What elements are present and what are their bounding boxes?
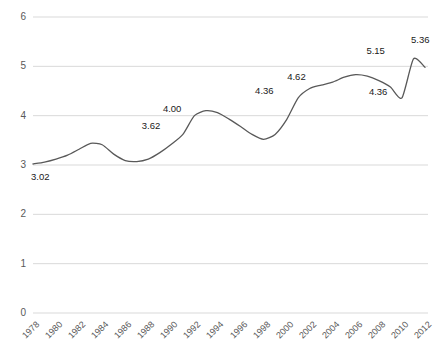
gridlines — [33, 17, 428, 313]
y-tick-label: 3 — [4, 160, 26, 170]
data-point-label: 5.36 — [411, 35, 430, 45]
line-chart: 0123456 19781980198219841986198819901992… — [0, 0, 442, 354]
data-point-label: 3.02 — [31, 172, 50, 182]
y-tick-label: 5 — [4, 61, 26, 71]
data-point-label: 5.15 — [366, 46, 385, 56]
data-point-label: 3.62 — [142, 121, 161, 131]
y-tick-label: 4 — [4, 111, 26, 121]
y-tick-label: 6 — [4, 12, 26, 22]
y-tick-label: 1 — [4, 259, 26, 269]
series-line — [33, 58, 425, 164]
data-point-label: 4.62 — [287, 72, 306, 82]
data-point-label: 4.36 — [369, 87, 388, 97]
data-point-label: 4.36 — [255, 86, 274, 96]
y-tick-label: 2 — [4, 209, 26, 219]
data-point-label: 4.00 — [163, 104, 182, 114]
data-series — [33, 58, 425, 164]
y-tick-label: 0 — [4, 308, 26, 318]
